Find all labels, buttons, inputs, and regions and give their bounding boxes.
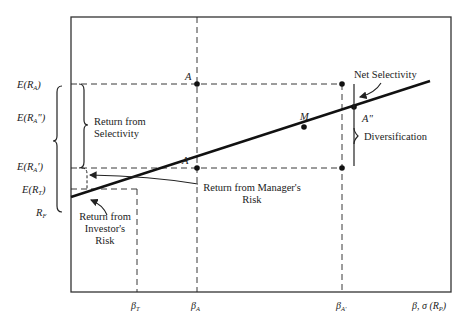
- brace-investors-risk-line: [82, 168, 87, 189]
- x-label-beta-a: βA: [190, 300, 200, 312]
- annotation-return-from-investors-risk: Return fromInvestor'sRisk: [79, 211, 131, 246]
- arrow-net-selectivity: [360, 83, 381, 97]
- point-a: [194, 81, 200, 87]
- sml-diagram: A A' A" M E(RA) E(RA") E(RA') E(RT) RF R…: [0, 0, 470, 325]
- plot-frame: [71, 17, 451, 292]
- point-label-m: M: [299, 111, 310, 122]
- point-label-a-double-prime: A": [361, 113, 373, 124]
- y-label-era-double-prime: E(RA"): [16, 112, 46, 124]
- y-label-rf: RF: [35, 207, 47, 219]
- point-a-prime: [194, 165, 200, 171]
- y-label-ert: E(RT): [21, 184, 46, 196]
- point-top-right: [339, 81, 345, 87]
- point-m: [301, 124, 307, 130]
- annotation-return-from-managers-risk: Return from Manager'sRisk: [203, 182, 301, 205]
- point-label-a: A: [184, 71, 192, 82]
- y-label-era-prime: E(RA'): [16, 161, 44, 173]
- x-axis-title: β, σ (RP): [411, 300, 447, 312]
- annotation-return-from-selectivity: Return fromSelectivity: [94, 116, 146, 139]
- arrow-managers-risk: [90, 175, 198, 184]
- y-axis-labels: E(RA) E(RA") E(RA') E(RT) RF: [16, 79, 47, 219]
- annotation-diversification: Diversification: [364, 131, 428, 142]
- x-label-beta-a-prime: βA': [335, 300, 347, 312]
- brace-total-return: [53, 86, 62, 212]
- y-label-era: E(RA): [16, 79, 41, 91]
- point-a-beta-a1: [339, 165, 345, 171]
- point-label-a-prime: A': [181, 155, 191, 166]
- x-label-beta-t: βT: [130, 300, 140, 312]
- annotation-net-selectivity: Net Selectivity: [354, 69, 417, 80]
- brace-selectivity: [79, 84, 88, 168]
